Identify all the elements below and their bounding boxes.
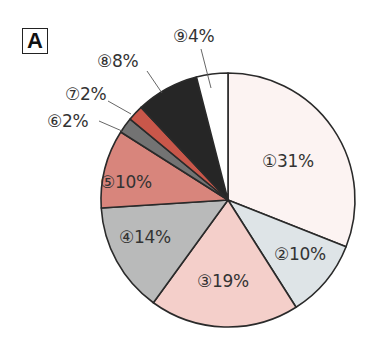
slice-label-3: ③19% — [197, 273, 249, 290]
slice-label-6: ⑥2% — [47, 113, 88, 130]
leader-line-6 — [99, 121, 122, 131]
slice-label-1: ①31% — [262, 153, 314, 170]
leader-line-8 — [147, 71, 162, 93]
slice-label-8: ⑧8% — [97, 53, 138, 70]
slice-label-4: ④14% — [119, 229, 171, 246]
pie-chart — [0, 0, 381, 353]
leader-line-7 — [108, 101, 131, 114]
panel-label: A — [27, 30, 43, 52]
slice-label-9: ⑨4% — [173, 28, 214, 45]
slice-label-5: ⑤10% — [100, 174, 152, 191]
slice-label-7: ⑦2% — [65, 86, 106, 103]
slice-label-2: ②10% — [274, 246, 326, 263]
panel-label-box: A — [22, 28, 48, 54]
